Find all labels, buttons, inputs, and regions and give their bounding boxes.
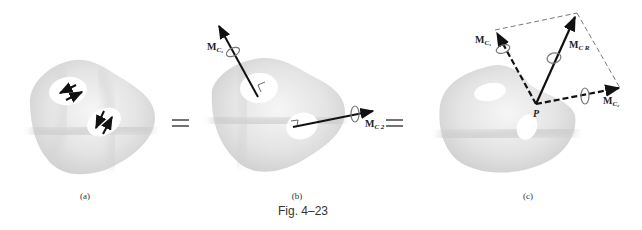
mc1-label-c: MC₁: [475, 34, 492, 47]
panel-b: MC₁ MC 2 (b): [207, 26, 385, 201]
mc2-label: MC 2: [365, 118, 385, 131]
panel-c: MC₁ MC₂ MC R P (c): [439, 13, 620, 201]
rigid-body-b: [212, 58, 345, 172]
panel-b-label: (b): [292, 191, 303, 201]
point-p-label: P: [533, 108, 540, 119]
mc2-label-c: MC₂: [603, 95, 620, 108]
mc1-label: MC₁: [207, 41, 224, 54]
panel-a: (a): [30, 60, 155, 201]
panel-c-label: (c): [523, 191, 533, 201]
figure-caption: Fig. 4–23: [278, 204, 328, 218]
panel-a-label: (a): [80, 191, 90, 201]
equals-sign-1: [172, 120, 189, 126]
equals-sign-2: [386, 120, 403, 126]
figure-4-23: (a) MC₁ MC 2 (b): [0, 0, 642, 230]
rigid-body-c: [439, 65, 575, 173]
rigid-body-a: [30, 60, 155, 175]
mcr-label: MC R: [569, 39, 590, 52]
